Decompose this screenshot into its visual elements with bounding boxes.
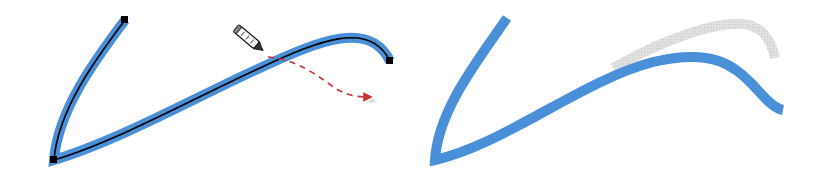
anchor-point-start[interactable] <box>121 16 128 23</box>
panel-before-reshape <box>0 0 413 188</box>
before-illustration <box>0 0 413 188</box>
anchor-point-end[interactable] <box>386 57 393 64</box>
anchor-point-bottom[interactable] <box>50 156 57 163</box>
arrow-shadow <box>364 97 380 105</box>
reshaped-blue-stroke <box>435 18 783 160</box>
panel-after-reshape <box>413 0 826 188</box>
after-illustration <box>413 0 826 188</box>
pencil-icon <box>233 24 266 53</box>
